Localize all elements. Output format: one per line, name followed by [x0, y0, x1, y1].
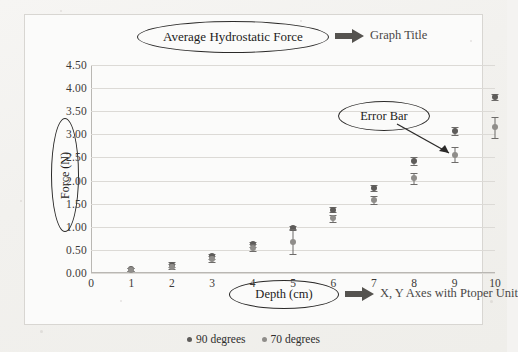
data-point [371, 197, 377, 203]
title-arrow-icon [335, 28, 365, 44]
xaxis-callout-label: Depth (cm) [255, 287, 312, 302]
error-bar-cap [411, 173, 418, 174]
x-axis-tick-label: 2 [169, 277, 175, 289]
y-axis-tick-label: 2.00 [53, 175, 87, 187]
chart-legend: 90 degrees70 degrees [25, 333, 482, 345]
data-point [492, 124, 498, 130]
gridline [91, 204, 495, 205]
y-axis-tick-label: 2.50 [53, 151, 87, 163]
data-point [330, 207, 336, 213]
error-bar-cap [451, 162, 458, 163]
x-axis-tick-label: 3 [209, 277, 215, 289]
title-callout-oval: Average Hydrostatic Force [137, 21, 329, 53]
data-point [290, 239, 296, 245]
error-bar-cap [290, 254, 297, 255]
scan-speckle [200, 340, 202, 342]
data-point [411, 175, 417, 181]
y-axis-tick-label: 3.50 [53, 105, 87, 117]
error-bar-cap [249, 251, 256, 252]
y-axis-tick-label: 4.00 [53, 82, 87, 94]
error-bar-cap [290, 229, 297, 230]
error-bar-cap [370, 204, 377, 205]
error-bar-cap [492, 117, 499, 118]
gridline [91, 111, 495, 112]
legend-label: 90 degrees [196, 333, 246, 345]
error-bar-cap [411, 165, 418, 166]
title-note-label: Graph Title [370, 28, 427, 43]
gridline [91, 273, 495, 274]
error-bar-cap [492, 138, 499, 139]
error-bar-pointer-arrow-icon [395, 120, 461, 162]
error-bar-cap [209, 262, 216, 263]
scan-speckle [40, 330, 43, 333]
legend-item[interactable]: 90 degrees [187, 333, 246, 345]
scan-speckle [470, 40, 472, 42]
plot-area [91, 65, 495, 273]
y-axis-tick-label: 3.00 [53, 128, 87, 140]
gridline [91, 181, 495, 182]
gridline [91, 88, 495, 89]
error-bar-cap [492, 100, 499, 101]
legend-marker-icon [262, 337, 267, 342]
x-axis-tick-label: 1 [129, 277, 135, 289]
error-bar-cap [411, 184, 418, 185]
error-bar-cap [370, 191, 377, 192]
title-callout-label: Average Hydrostatic Force [163, 29, 303, 45]
xaxis-callout-oval: Depth (cm) [229, 280, 339, 309]
y-axis-tick-labels: 0.000.501.001.502.002.503.003.504.004.50 [45, 65, 87, 273]
legend-item[interactable]: 70 degrees [262, 333, 321, 345]
y-axis-tick-label: 1.00 [53, 221, 87, 233]
data-point [492, 94, 498, 100]
y-axis-line [91, 65, 92, 273]
gridline [91, 65, 495, 66]
scan-speckle [300, 20, 302, 22]
data-point [128, 267, 134, 273]
scan-speckle [490, 300, 493, 303]
y-axis-tick-label: 1.50 [53, 198, 87, 210]
chart-container: Average Hydrostatic Force Graph Title Fo… [24, 14, 483, 325]
axes-note-label: X, Y Axes with Ptoper Unit [380, 286, 518, 301]
axes-note-arrow-icon [345, 286, 375, 302]
data-point [169, 264, 175, 270]
legend-label: 70 degrees [271, 333, 321, 345]
scan-speckle [20, 200, 22, 202]
legend-marker-icon [187, 337, 192, 342]
x-axis-tick-label: 0 [88, 277, 94, 289]
y-axis-tick-label: 0.50 [53, 244, 87, 256]
data-point [330, 215, 336, 221]
scan-speckle [60, 10, 62, 12]
y-axis-tick-label: 4.50 [53, 59, 87, 71]
error-bar-cap [330, 222, 337, 223]
data-point [209, 256, 215, 262]
scan-speckle [120, 300, 122, 302]
data-point [250, 245, 256, 251]
y-axis-tick-label: 0.00 [53, 267, 87, 279]
data-point [371, 185, 377, 191]
